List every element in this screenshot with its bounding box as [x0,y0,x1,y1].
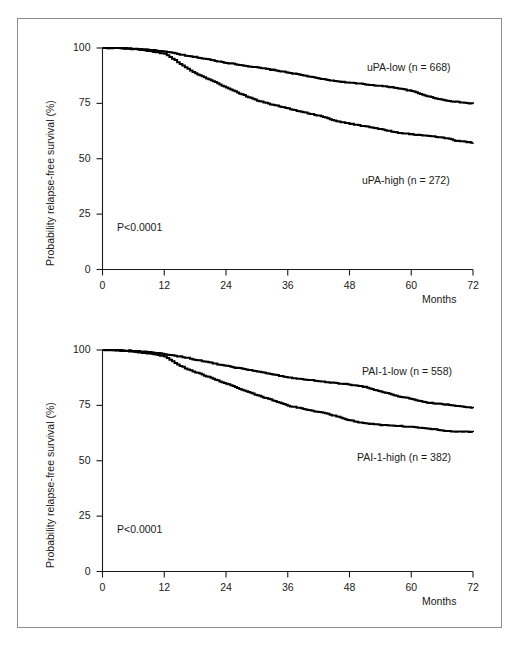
upa-y-tick-label: 100 [45,41,91,53]
upa-x-tick-label: 60 [391,279,431,291]
upa-x-ticks [103,270,474,276]
upa-y-tick-label: 25 [45,207,91,219]
pai-x-tick-label: 0 [83,581,123,593]
pai-x-tick-label: 12 [144,581,184,593]
pai-x-tick-label: 72 [453,581,493,593]
figure-frame: Probability relapse-free survival (%) Mo… [17,18,502,628]
upa-x-axis-title: Months [422,293,456,305]
curve-upa-low [103,48,474,104]
upa-x-tick-label: 24 [206,279,246,291]
pai-low-series-label: PAI-1-low (n = 558) [362,365,452,377]
chart-panel-upa: Probability relapse-free survival (%) Mo… [18,21,503,321]
pai-y-tick-label: 100 [45,343,91,355]
upa-y-axis-title: Probability relapse-free survival (%) [44,100,56,266]
pai-x-axis-title: Months [422,595,456,607]
pai-y-tick-label: 0 [45,565,91,577]
chart-panel-pai: Probability relapse-free survival (%) Mo… [18,323,503,623]
pai-x-tick-label: 36 [268,581,308,593]
pai-y-tick-label: 50 [45,454,91,466]
upa-x-tick-label: 72 [453,279,493,291]
upa-high-series-label: uPA-high (n = 272) [362,174,450,186]
curve-pai-high [103,350,474,432]
pai-x-ticks [103,572,474,578]
pai-y-tick-label: 25 [45,509,91,521]
pai-pvalue-annotation: P<0.0001 [117,523,162,535]
pai-x-tick-label: 60 [391,581,431,593]
upa-x-tick-label: 36 [268,279,308,291]
upa-y-tick-label: 50 [45,152,91,164]
upa-y-tick-label: 0 [45,263,91,275]
upa-y-tick-label: 75 [45,96,91,108]
pai-high-series-label: PAI-1-high (n = 382) [357,451,451,463]
upa-x-tick-label: 12 [144,279,184,291]
pai-y-tick-label: 75 [45,398,91,410]
upa-x-tick-label: 0 [83,279,123,291]
upa-pvalue-annotation: P<0.0001 [117,221,162,233]
upa-x-tick-label: 48 [330,279,370,291]
pai-y-ticks [97,350,103,572]
curve-pai-low [103,350,474,408]
pai-x-tick-label: 24 [206,581,246,593]
upa-axes [103,48,474,270]
upa-y-ticks [97,48,103,270]
pai-y-axis-title: Probability relapse-free survival (%) [44,402,56,568]
upa-low-series-label: uPA-low (n = 668) [367,61,451,73]
pai-x-tick-label: 48 [330,581,370,593]
